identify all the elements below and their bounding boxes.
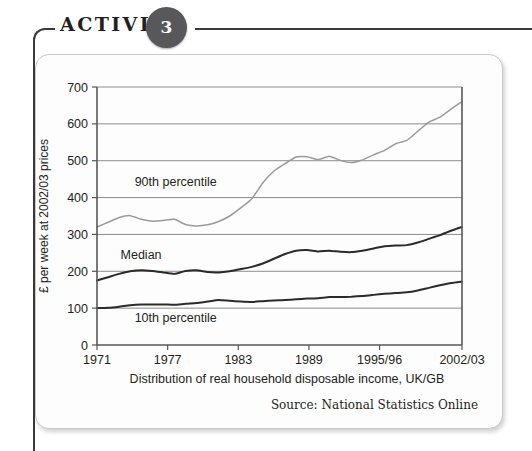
figure-caption: Distribution of real household disposabl… [97,372,477,386]
activity-number-badge: 3 [146,7,187,48]
frame-top-rule [195,28,532,30]
activity-number-label: 3 [146,7,187,48]
figure-source: Source: National Statistics Online [150,398,478,412]
frame-corner-decoration [33,28,55,44]
